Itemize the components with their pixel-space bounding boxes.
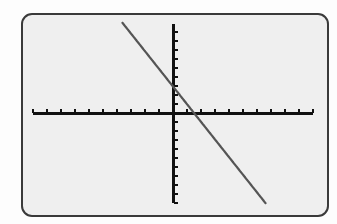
x-tick (32, 109, 34, 113)
y-tick (174, 31, 178, 33)
x-tick (88, 109, 90, 113)
y-tick (174, 40, 178, 42)
y-tick (174, 121, 178, 123)
x-tick (46, 109, 48, 113)
x-tick (144, 109, 146, 113)
y-tick (174, 67, 178, 69)
x-tick (158, 109, 160, 113)
y-tick (174, 184, 178, 186)
y-tick (174, 148, 178, 150)
x-tick (284, 109, 286, 113)
y-tick (174, 49, 178, 51)
x-tick (60, 109, 62, 113)
y-tick (174, 94, 178, 96)
y-tick (174, 85, 178, 87)
x-tick (130, 109, 132, 113)
x-tick (74, 109, 76, 113)
x-tick (214, 109, 216, 113)
x-tick (116, 109, 118, 113)
y-tick (174, 139, 178, 141)
y-tick (174, 166, 178, 168)
y-tick (174, 175, 178, 177)
y-tick (174, 193, 178, 195)
axes (33, 24, 313, 203)
x-tick (200, 109, 202, 113)
x-tick (256, 109, 258, 113)
x-tick (298, 109, 300, 113)
x-tick (102, 109, 104, 113)
graph-plot (0, 0, 337, 224)
x-tick (228, 109, 230, 113)
y-tick (174, 58, 178, 60)
y-tick (174, 103, 178, 105)
x-tick (270, 109, 272, 113)
y-tick (174, 130, 178, 132)
x-tick (312, 109, 314, 113)
x-tick (242, 109, 244, 113)
y-tick (174, 157, 178, 159)
y-tick (174, 76, 178, 78)
y-tick (174, 202, 178, 204)
x-tick (186, 109, 188, 113)
